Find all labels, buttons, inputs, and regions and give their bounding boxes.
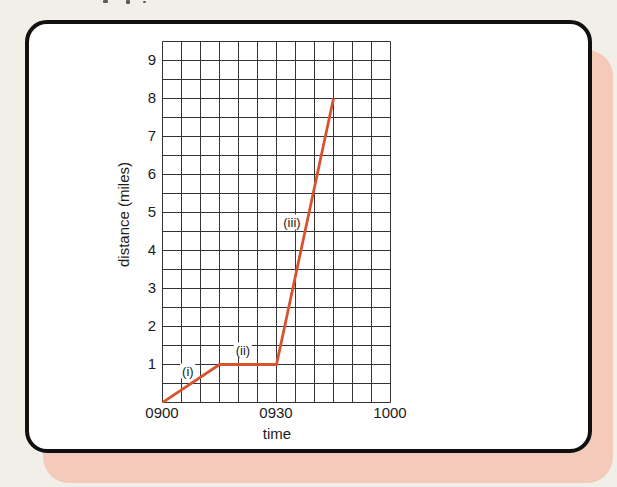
x-axis-tick-label: 1000	[360, 404, 420, 422]
y-axis-tick-label: 6	[116, 165, 156, 183]
y-axis-tick-label: 8	[116, 89, 156, 107]
distance-time-chart: time distance (miles) 090009301000123456…	[0, 0, 617, 487]
segment-label: (iii)	[281, 214, 302, 229]
y-axis-tick-label: 4	[116, 241, 156, 259]
y-axis-tick-label: 7	[116, 127, 156, 145]
y-axis-tick-label: 9	[116, 51, 156, 69]
x-axis-tick-label: 0900	[132, 404, 192, 422]
cropped-print-artifact	[143, 1, 146, 3]
cropped-print-artifact	[126, 0, 130, 4]
y-axis-tick-label: 1	[116, 355, 156, 373]
x-axis-tick-label: 0930	[246, 404, 306, 422]
grid-lines	[163, 42, 391, 403]
plot-area	[162, 41, 391, 403]
cropped-print-artifact	[103, 0, 108, 3]
segment-label: (ii)	[234, 342, 252, 357]
y-axis-tick-label: 5	[116, 203, 156, 221]
y-axis-tick-label: 3	[116, 279, 156, 297]
segment-label: (i)	[180, 363, 196, 378]
x-axis-title: time	[237, 425, 317, 442]
y-axis-tick-label: 2	[116, 317, 156, 335]
